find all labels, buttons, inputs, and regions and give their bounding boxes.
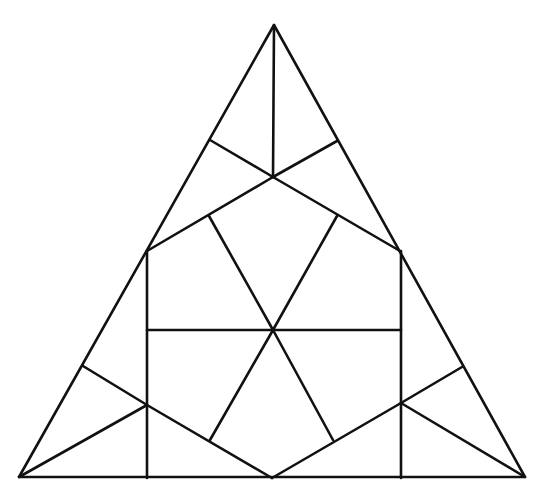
segment-line — [273, 330, 333, 440]
segment-line — [147, 405, 272, 478]
segment-line — [272, 403, 401, 478]
triangle-diagram — [0, 0, 551, 500]
segment-line — [209, 216, 273, 330]
segment-line — [273, 177, 400, 251]
subdivided-triangle-figure — [0, 0, 551, 500]
segment-line — [210, 140, 273, 177]
segment-line — [273, 216, 337, 330]
segment-line — [273, 25, 274, 177]
segment-line — [401, 403, 525, 477]
outer-triangle — [19, 25, 525, 477]
segment-line — [401, 367, 462, 403]
segment-line — [273, 141, 337, 177]
interior-segments — [19, 25, 525, 478]
segment-line — [210, 330, 273, 440]
segment-line — [83, 366, 147, 405]
